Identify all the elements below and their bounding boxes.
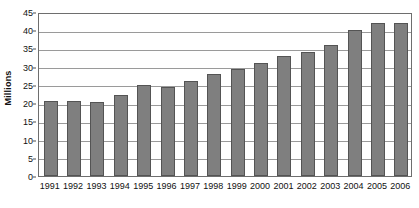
y-tick-label: 15 [23, 118, 33, 127]
bar [277, 56, 291, 176]
bar [67, 101, 81, 176]
y-axis-ticks: 454035302520151050 [16, 0, 36, 182]
y-tick-label: 30 [23, 63, 33, 72]
y-tick-label: 40 [23, 27, 33, 36]
x-tick-label: 1993 [86, 181, 106, 191]
y-tick-mark [33, 158, 36, 159]
bar [137, 85, 151, 176]
y-tick-label: 25 [23, 81, 33, 90]
bar [161, 87, 175, 176]
bar [231, 69, 245, 177]
y-tick-label: 35 [23, 45, 33, 54]
bar [207, 74, 221, 176]
y-axis-title: Millions [0, 0, 16, 176]
bar [348, 30, 362, 176]
bar [394, 23, 408, 176]
y-tick-mark [33, 122, 36, 123]
x-tick-label: 1996 [157, 181, 177, 191]
x-tick-label: 1998 [203, 181, 223, 191]
x-tick-label: 2003 [320, 181, 340, 191]
y-tick-mark [33, 13, 36, 14]
x-tick-label: 1994 [110, 181, 130, 191]
x-tick-label: 2000 [250, 181, 270, 191]
y-tick-mark [33, 49, 36, 50]
x-tick-label: 1997 [180, 181, 200, 191]
x-tick-label: 2002 [297, 181, 317, 191]
y-tick-label: 10 [23, 136, 33, 145]
bar [90, 102, 104, 176]
y-tick-label: 45 [23, 9, 33, 18]
x-tick-label: 1999 [227, 181, 247, 191]
y-tick-mark [33, 177, 36, 178]
x-tick-label: 2005 [367, 181, 387, 191]
bar [301, 52, 315, 176]
bar [324, 45, 338, 176]
x-tick-label: 1992 [63, 181, 83, 191]
y-tick-mark [33, 140, 36, 141]
bar-chart: Millions 454035302520151050 199119921993… [0, 0, 419, 208]
y-tick-label: 20 [23, 100, 33, 109]
x-tick-label: 2004 [344, 181, 364, 191]
x-tick-label: 2001 [273, 181, 293, 191]
plot-area [38, 13, 412, 177]
x-tick-label: 1995 [133, 181, 153, 191]
bar [184, 81, 198, 176]
y-tick-mark [33, 85, 36, 86]
y-tick-mark [33, 67, 36, 68]
y-tick-mark [33, 104, 36, 105]
x-tick-label: 1991 [40, 181, 60, 191]
bar [371, 23, 385, 176]
bar [254, 63, 268, 176]
bar [44, 101, 58, 176]
bars-layer [39, 14, 411, 176]
x-tick-label: 2006 [390, 181, 410, 191]
bar [114, 95, 128, 176]
x-axis-labels: 1991199219931994199519961997199819992000… [38, 178, 412, 198]
y-tick-mark [33, 31, 36, 32]
y-axis-title-text: Millions [3, 70, 13, 105]
